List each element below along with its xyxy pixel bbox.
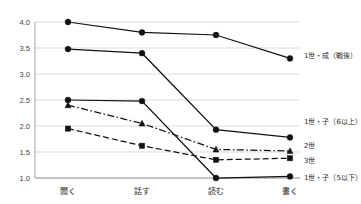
series-line-1 <box>68 49 290 137</box>
y-tick-label: 3.5 <box>20 44 30 53</box>
series-line-3 <box>68 129 290 160</box>
legend-label-2: 2世 <box>304 141 315 150</box>
data-point <box>65 46 71 52</box>
data-point <box>139 30 145 36</box>
legend-label-4: 1世・子（5以下） <box>304 173 361 182</box>
data-point <box>287 56 293 62</box>
series-4 <box>65 97 293 181</box>
y-axis-ticks: 4.0 3.5 3.0 2.5 2.0 1.5 1.0 <box>20 18 30 183</box>
y-tick-label: 2.5 <box>20 96 30 105</box>
y-tick-label: 2.0 <box>20 122 30 131</box>
x-tick-label-kiku: 聞く <box>60 187 76 196</box>
series-line-2 <box>68 105 290 151</box>
data-point <box>287 156 292 161</box>
y-tick-label: 1.0 <box>20 174 30 183</box>
data-point <box>213 157 218 162</box>
data-point <box>213 32 219 38</box>
chart-legend: 1世・成（戦後）1世・子（6以上）2世3世1世・子（5以下） <box>304 51 361 182</box>
data-point <box>287 135 293 141</box>
x-tick-label-kaku: 書く <box>282 186 298 196</box>
series-3 <box>65 126 292 162</box>
data-point <box>65 97 71 103</box>
x-axis-ticks: 聞く 話す 読む 書く <box>60 186 298 196</box>
series-line-4 <box>68 100 290 178</box>
data-point <box>65 19 71 25</box>
y-tick-label: 4.0 <box>20 18 30 27</box>
x-tick-label-yomu: 読む <box>208 186 224 196</box>
data-point <box>139 143 144 148</box>
y-tick-label: 3.0 <box>20 70 30 79</box>
data-point <box>213 127 219 133</box>
legend-label-3: 3世 <box>304 156 315 165</box>
data-point <box>287 174 293 180</box>
series-line-0 <box>68 22 290 58</box>
data-point <box>213 175 219 181</box>
data-point <box>139 98 145 104</box>
x-tick-label-hanasu: 話す <box>134 186 150 196</box>
series-2 <box>65 102 293 154</box>
y-tick-label: 1.5 <box>20 148 30 157</box>
chart-canvas: 4.0 3.5 3.0 2.5 2.0 1.5 1.0 聞く 話す 読む 書く … <box>0 0 361 204</box>
data-point <box>65 126 70 131</box>
data-point <box>139 50 145 56</box>
legend-label-1: 1世・子（6以上） <box>304 117 361 126</box>
series-0 <box>65 19 293 61</box>
legend-label-0: 1世・成（戦後） <box>304 51 357 60</box>
line-chart: 4.0 3.5 3.0 2.5 2.0 1.5 1.0 聞く 話す 読む 書く … <box>0 0 361 204</box>
